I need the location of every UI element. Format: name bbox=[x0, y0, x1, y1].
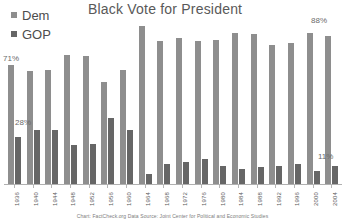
bar-dem-1980[interactable] bbox=[213, 40, 219, 184]
axis-tick bbox=[275, 184, 276, 188]
year-cell: 1968 bbox=[154, 189, 173, 211]
bar-dem-2004[interactable] bbox=[325, 36, 331, 184]
axis-tick bbox=[257, 184, 258, 188]
bar-gop-1940[interactable] bbox=[34, 130, 40, 184]
axis-tick bbox=[51, 184, 52, 188]
tick-cell bbox=[98, 184, 117, 188]
bar-gop-1996[interactable] bbox=[295, 164, 301, 184]
x-axis-ticks bbox=[4, 184, 342, 188]
bar-dem-1956[interactable] bbox=[101, 82, 107, 184]
bar-dem-1996[interactable] bbox=[288, 43, 294, 184]
bar-groups bbox=[4, 16, 342, 184]
bar-group bbox=[210, 16, 229, 184]
axis-tick bbox=[238, 184, 239, 188]
bar-dem-1972[interactable] bbox=[176, 38, 182, 184]
tick-cell bbox=[80, 184, 99, 188]
tick-cell bbox=[173, 184, 192, 188]
year-cell: 1972 bbox=[173, 189, 192, 211]
bar-dem-1976[interactable] bbox=[195, 41, 201, 184]
legend-item-gop[interactable]: GOP bbox=[11, 25, 51, 43]
legend-swatch-dem bbox=[11, 12, 17, 18]
bar-gop-1960[interactable] bbox=[127, 130, 133, 184]
bar-gop-1964[interactable] bbox=[146, 174, 152, 184]
bar-gop-1984[interactable] bbox=[239, 169, 245, 184]
bar-dem-1984[interactable] bbox=[232, 33, 238, 184]
year-cell: 2000 bbox=[304, 189, 323, 211]
bar-gop-2000[interactable] bbox=[314, 171, 320, 184]
legend-swatch-gop bbox=[11, 31, 17, 37]
year-cell: 1964 bbox=[136, 189, 155, 211]
x-tick-label-1992: 1992 bbox=[276, 192, 282, 206]
bar-gop-1948[interactable] bbox=[71, 145, 77, 184]
year-cell: 1992 bbox=[266, 189, 285, 211]
tick-cell bbox=[192, 184, 211, 188]
year-cell: 1952 bbox=[80, 189, 99, 211]
axis-tick bbox=[201, 184, 202, 188]
tick-cell bbox=[5, 184, 24, 188]
bar-gop-2004[interactable] bbox=[332, 166, 338, 184]
tick-cell bbox=[42, 184, 61, 188]
bar-dem-1988[interactable] bbox=[251, 34, 257, 184]
year-cell: 1996 bbox=[285, 189, 304, 211]
bar-gop-1972[interactable] bbox=[183, 162, 189, 184]
bar-gop-1968[interactable] bbox=[164, 164, 170, 184]
x-tick-label-1948: 1948 bbox=[70, 192, 76, 206]
x-tick-label-1984: 1984 bbox=[238, 192, 244, 206]
bar-group bbox=[192, 16, 211, 184]
bar-gop-1952[interactable] bbox=[90, 144, 96, 184]
year-cell: 1936 bbox=[5, 189, 24, 211]
year-cell: 1956 bbox=[98, 189, 117, 211]
tick-cell bbox=[117, 184, 136, 188]
year-cell: 1984 bbox=[229, 189, 248, 211]
tick-cell bbox=[304, 184, 323, 188]
year-cell: 2004 bbox=[322, 189, 341, 211]
x-axis-labels: 1936194019441948195219561960196419681972… bbox=[4, 189, 342, 211]
bar-dem-1964[interactable] bbox=[139, 26, 145, 184]
bar-group bbox=[154, 16, 173, 184]
axis-tick bbox=[182, 184, 183, 188]
axis-tick bbox=[70, 184, 71, 188]
x-tick-label-1976: 1976 bbox=[201, 192, 207, 206]
bar-gop-1936[interactable] bbox=[15, 137, 21, 184]
bar-dem-1960[interactable] bbox=[120, 70, 126, 184]
year-cell: 1960 bbox=[117, 189, 136, 211]
bar-dem-1936[interactable] bbox=[8, 65, 14, 184]
bar-dem-1948[interactable] bbox=[64, 55, 70, 184]
data-label-gop-2004: 11% bbox=[318, 152, 333, 161]
axis-tick bbox=[14, 184, 15, 188]
axis-tick bbox=[89, 184, 90, 188]
bar-gop-1956[interactable] bbox=[108, 118, 114, 184]
tick-cell bbox=[248, 184, 267, 188]
bar-dem-1992[interactable] bbox=[269, 45, 275, 184]
x-tick-label-1960: 1960 bbox=[126, 192, 132, 206]
x-tick-label-1952: 1952 bbox=[89, 192, 95, 206]
axis-tick bbox=[33, 184, 34, 188]
bar-group bbox=[266, 16, 285, 184]
bar-gop-1992[interactable] bbox=[276, 166, 282, 184]
axis-tick bbox=[126, 184, 127, 188]
bar-dem-1944[interactable] bbox=[45, 70, 51, 184]
bar-gop-1980[interactable] bbox=[220, 166, 226, 184]
axis-tick bbox=[219, 184, 220, 188]
chart-container: Black Vote for President Dem GOP 1936194… bbox=[0, 0, 345, 223]
bar-group bbox=[136, 16, 155, 184]
year-cell: 1988 bbox=[248, 189, 267, 211]
year-cell: 1976 bbox=[192, 189, 211, 211]
data-label-dem-1936: 71% bbox=[3, 54, 19, 63]
bar-gop-1976[interactable] bbox=[202, 159, 208, 184]
bar-gop-1988[interactable] bbox=[258, 167, 264, 184]
bar-gop-1944[interactable] bbox=[52, 130, 58, 184]
tick-cell bbox=[285, 184, 304, 188]
tick-cell bbox=[266, 184, 285, 188]
bar-dem-2000[interactable] bbox=[307, 33, 313, 184]
x-tick-label-1940: 1940 bbox=[33, 192, 39, 206]
bar-dem-1968[interactable] bbox=[157, 41, 163, 184]
tick-cell bbox=[322, 184, 341, 188]
bar-dem-1952[interactable] bbox=[83, 56, 89, 184]
bar-dem-1940[interactable] bbox=[27, 71, 33, 184]
bar-group bbox=[248, 16, 267, 184]
x-tick-label-1936: 1936 bbox=[14, 192, 20, 206]
axis-tick bbox=[107, 184, 108, 188]
x-tick-label-2000: 2000 bbox=[313, 192, 319, 206]
legend-item-dem[interactable]: Dem bbox=[11, 6, 51, 24]
